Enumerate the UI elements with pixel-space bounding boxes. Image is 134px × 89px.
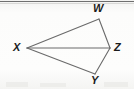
vertex-label-y: Y [91, 75, 98, 86]
vertex-label-w: W [93, 3, 103, 14]
geometry-figure: W Z Y X [0, 0, 134, 89]
segment-xw [27, 19, 99, 48]
segment-yx [27, 48, 95, 74]
vertex-label-z: Z [114, 42, 121, 53]
segment-zy [95, 48, 110, 74]
segment-wz [99, 19, 110, 48]
vertex-label-x: X [13, 42, 20, 53]
